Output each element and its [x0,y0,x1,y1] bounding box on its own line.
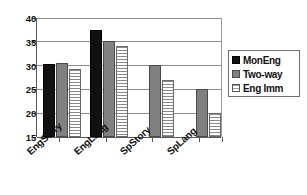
bar-engstory-eng-imm [69,69,81,137]
legend-label: Two-way [243,69,282,80]
chart-figure: 152025303540 EngStoryEngLangSpStorySpLan… [0,0,307,195]
x-tick-mark [106,137,107,142]
legend-item-moneng: MonEng [232,53,296,67]
legend-swatch-icon [232,84,240,92]
bar-group-spstory [130,18,177,137]
legend-item-two-way: Two-way [232,67,296,81]
legend: MonEngTwo-wayEng Imm [228,50,300,97]
x-tick-mark [59,137,60,142]
x-tick-mark [222,137,223,142]
bar-splang-two-way [196,89,208,137]
bar-englang-moneng [90,30,102,137]
legend-swatch-icon [232,70,240,78]
bar-group-englang [84,18,131,137]
y-tick-label: 20 [12,108,36,119]
legend-label: Eng Imm [243,83,283,94]
legend-label: MonEng [243,55,281,66]
bar-spstory-two-way [149,65,161,137]
bar-splang-eng-imm [209,113,221,137]
bar-group-splang [177,18,224,137]
y-tick-label: 25 [12,84,36,95]
bar-group-engstory [37,18,84,137]
y-tick-label: 40 [12,13,36,24]
legend-swatch-icon [232,56,240,64]
y-tick-label: 35 [12,36,36,47]
x-tick-mark [152,137,153,142]
legend-item-eng-imm: Eng Imm [232,81,296,95]
y-tick-label: 30 [12,60,36,71]
bar-englang-eng-imm [116,46,128,137]
plot-area [36,18,222,137]
bar-spstory-eng-imm [162,80,174,137]
x-tick-mark [199,137,200,142]
